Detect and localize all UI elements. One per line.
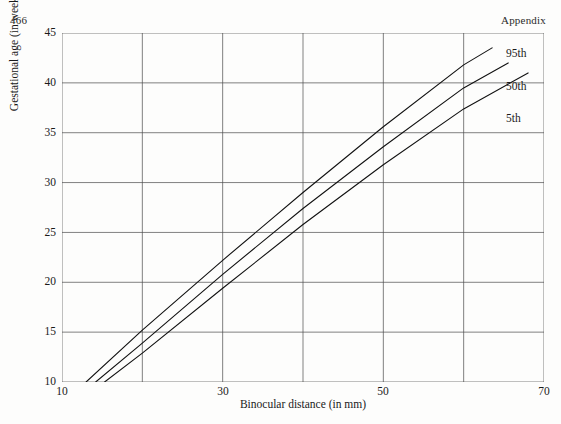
x-tick-10: 10 [47,385,77,397]
x-axis-title: Binocular distance (in mm) [62,398,544,410]
series-line-5th [105,73,528,382]
page-canvas: 466 Appendix [0,0,561,424]
running-head: Appendix [501,14,546,26]
grid-lines [62,33,544,382]
y-tick-20: 20 [26,275,56,287]
x-tick-50: 50 [368,385,398,397]
x-tick-30: 30 [208,385,238,397]
series-label-5th: 5th [506,112,521,124]
y-axis-title: Gestational age (in weeks) [8,0,20,135]
chart-svg [62,33,544,382]
y-tick-25: 25 [26,226,56,238]
y-tick-30: 30 [26,176,56,188]
y-tick-40: 40 [26,76,56,88]
y-tick-45: 45 [26,26,56,38]
y-tick-35: 35 [26,126,56,138]
series-label-95th: 95th [506,47,526,59]
x-tick-70: 70 [529,385,559,397]
series-label-50th: 50th [506,80,526,92]
y-tick-15: 15 [26,325,56,337]
series-line-50th [96,63,509,382]
chart-plot-area: 95th 50th 5th [62,33,544,382]
